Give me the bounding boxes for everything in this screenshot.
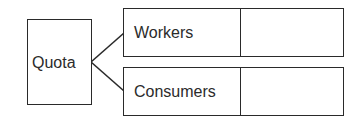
quota-node: Quota — [27, 19, 92, 105]
quota-label: Quota — [32, 55, 76, 71]
connector-quota-consumers — [91, 62, 124, 91]
workers-name-cell: Workers — [124, 9, 241, 56]
consumers-node: Consumers — [123, 67, 344, 116]
connector-quota-workers — [91, 33, 124, 62]
consumers-name-cell: Consumers — [124, 68, 241, 115]
consumers-value-cell — [240, 68, 343, 115]
consumers-label: Consumers — [134, 84, 216, 100]
workers-label: Workers — [134, 25, 193, 41]
workers-value-cell — [240, 9, 343, 56]
quota-diagram: Quota Workers Consumers — [0, 0, 353, 132]
workers-node: Workers — [123, 8, 344, 57]
